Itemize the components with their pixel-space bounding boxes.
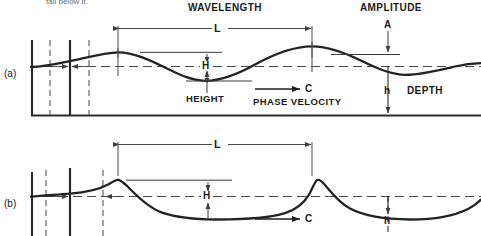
panel-b xyxy=(31,142,481,236)
amplitude-symbol-label: A xyxy=(384,20,392,30)
wavelength-symbol-label-a: L xyxy=(214,23,221,34)
depth-title-label: DEPTH xyxy=(407,86,443,96)
height-symbol-label-b: H xyxy=(201,191,213,201)
wavelength-title-label: WAVELENGTH xyxy=(188,3,262,13)
amplitude-title-label: AMPLITUDE xyxy=(360,3,422,13)
phase-velocity-symbol-label-a: C xyxy=(305,84,313,94)
depth-symbol-label-b: h xyxy=(384,216,391,226)
depth-symbol-label-a: h xyxy=(384,86,391,96)
phase-velocity-symbol-label-b: C xyxy=(305,214,313,224)
diagram-canvas xyxy=(0,0,481,236)
wave-parameter-diagram: fall below it. xyxy=(0,0,481,236)
height-title-label: HEIGHT xyxy=(186,94,224,104)
panel-a-caption: (a) xyxy=(4,69,16,79)
panel-b-cnoidal-wave-profile xyxy=(31,180,481,220)
cut-off-body-text: fall below it. xyxy=(46,0,116,7)
panel-a-sinusoidal-wave-profile xyxy=(31,46,481,81)
height-symbol-label-a: H xyxy=(200,61,212,71)
panel-b-caption: (b) xyxy=(4,199,16,209)
phase-velocity-title-label: PHASE VELOCITY xyxy=(253,97,341,107)
wavelength-symbol-label-b: L xyxy=(214,139,221,150)
